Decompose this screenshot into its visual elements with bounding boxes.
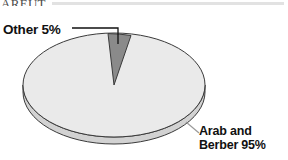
- chart-page: AREUT Other 5% Arab and Berber 95%: [0, 0, 288, 160]
- pie-label-arab-line1: Arab and: [199, 124, 266, 138]
- pie-label-other: Other 5%: [3, 22, 61, 37]
- leader-line-arab-and-berber: [186, 122, 199, 133]
- pie-label-arab-line2: Berber 95%: [199, 138, 266, 152]
- pie-chart: Other 5% Arab and Berber 95%: [0, 0, 288, 160]
- pie-label-arab-and-berber: Arab and Berber 95%: [199, 124, 266, 152]
